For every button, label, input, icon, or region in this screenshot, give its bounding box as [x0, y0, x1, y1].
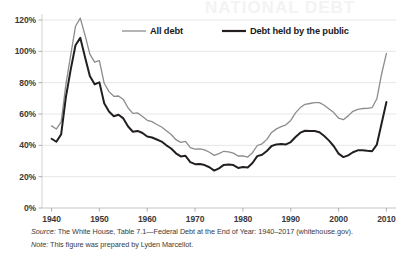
x-tick-label-1960: 1960 [138, 214, 157, 224]
caption-source-line: Source: The White House, Table 7.1—Feder… [31, 226, 391, 239]
x-tick-label-2000: 2000 [329, 214, 348, 224]
caption-note-text: This figure was prepared by Lyden Marcel… [48, 240, 193, 249]
x-tick-label-1980: 1980 [234, 214, 253, 224]
y-tick-label-100: 100% [15, 46, 37, 56]
chart-plot-area: 0%20%40%60%80%100%120% 19401950196019701… [0, 0, 404, 226]
y-tick-label-20: 20% [19, 172, 36, 182]
y-tick-label-80: 80% [19, 78, 36, 88]
gridlines-group [42, 20, 396, 208]
series-line-debt-held-by-public [52, 38, 387, 171]
x-tick-label-1970: 1970 [186, 214, 205, 224]
caption-source-text: The White House, Table 7.1—Federal Debt … [56, 227, 353, 236]
data-series-group [52, 18, 387, 170]
figure-caption: Source: The White House, Table 7.1—Feder… [31, 226, 391, 251]
caption-source-label: Source: [31, 227, 56, 236]
y-tick-label-60: 60% [19, 109, 36, 119]
legend-label-all-debt: All debt [150, 26, 183, 36]
x-tick-label-1940: 1940 [42, 214, 61, 224]
debt-to-gdp-chart-figure: NATIONAL DEBT 0%20%40%60%80%100%120% 194… [0, 0, 404, 269]
x-tick-label-2010: 2010 [377, 214, 396, 224]
x-tick-label-1950: 1950 [90, 214, 109, 224]
y-axis-tick-labels: 0%20%40%60%80%100%120% [15, 15, 37, 213]
axis-lines-group [39, 14, 397, 212]
y-tick-label-120: 120% [15, 15, 37, 25]
series-line-all-debt [52, 18, 387, 157]
chart-legend: All debtDebt held by the public [122, 26, 349, 36]
y-tick-label-0: 0% [24, 203, 37, 213]
y-tick-label-40: 40% [19, 140, 36, 150]
x-tick-label-1990: 1990 [281, 214, 300, 224]
caption-note-line: Note: This figure was prepared by Lyden … [31, 239, 391, 252]
legend-label-debt-held-by-public: Debt held by the public [250, 26, 349, 36]
x-axis-tick-labels: 19401950196019701980199020002010 [42, 214, 396, 224]
caption-note-label: Note: [31, 240, 48, 249]
